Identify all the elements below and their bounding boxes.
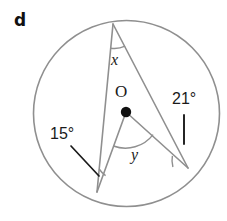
geometry-canvas [0, 0, 227, 221]
geometry-figure: d O x y 15° 21° [0, 0, 227, 221]
angle-21-label: 21° [172, 91, 196, 107]
center-point-dot [121, 107, 131, 117]
part-label: d [14, 12, 26, 29]
leader-line-15 [71, 146, 99, 176]
angle-arc-x [111, 46, 125, 48]
angle-arc-21 [172, 156, 173, 167]
angle-y-label: y [131, 147, 138, 163]
angle-x-label: x [111, 52, 118, 68]
center-point-label: O [115, 83, 127, 100]
chord-apex-to-bottom-left [97, 24, 113, 192]
angle-15-label: 15° [50, 126, 74, 142]
